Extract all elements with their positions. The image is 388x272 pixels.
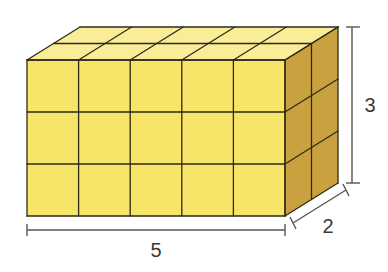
diagram-canvas: 5 3 2	[0, 0, 388, 272]
depth-tick-front	[290, 217, 296, 229]
front-face	[27, 60, 285, 216]
cube-prism-diagram: 5 3 2	[0, 0, 388, 272]
height-label: 3	[364, 94, 375, 116]
depth-label: 2	[322, 215, 333, 237]
length-label: 5	[150, 239, 161, 261]
depth-tick-back	[343, 184, 349, 196]
